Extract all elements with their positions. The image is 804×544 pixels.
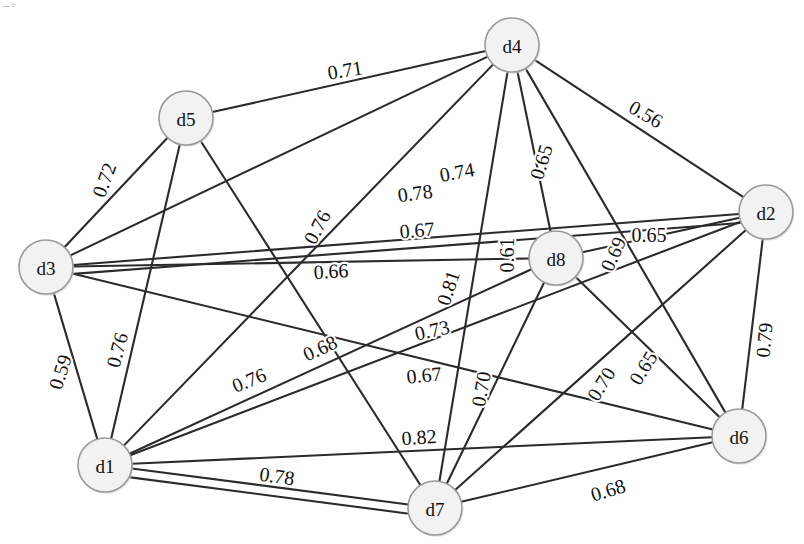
graph-node-d1[interactable]: d1 [78,438,134,494]
edge-weight-text: 0.78 [396,180,434,207]
edge-weight-label: 0.70 [467,370,495,408]
graph-edge [130,269,532,453]
node-circle[interactable] [19,240,73,294]
node-circle[interactable] [712,409,766,463]
graph-edge [72,273,713,429]
edge-weight-label: 0.76 [299,206,335,247]
edge-weight-text: 0.66 [313,259,349,283]
edge-weight-label: 0.79 [752,322,777,359]
graph-node-d6[interactable]: d6 [712,409,768,465]
edge-weight-label: 0.67 [399,218,436,243]
edge-weight-label: 0.65 [632,224,667,246]
graph-edge [535,60,744,197]
edge-weight-text: 0.68 [588,474,628,505]
edge-weight-text: 0.74 [438,158,476,186]
edge-weight-text: 0.73 [412,315,451,344]
edge-weight-label: 0.66 [313,259,349,283]
edge-weight-label: 0.73 [412,315,451,344]
edge-weight-text: 0.56 [625,96,666,133]
node-circle[interactable] [485,18,539,72]
edge-weight-text: 0.79 [752,322,777,359]
edge-weight-text: 0.70 [467,370,495,408]
edge-weight-text: 0.59 [44,352,75,392]
node-circle[interactable] [159,91,213,145]
graph-edge [64,138,167,248]
edge-weight-label: 0.82 [401,425,437,449]
graph-node-d3[interactable]: d3 [19,240,75,296]
graph-node-d8[interactable]: d8 [529,231,585,287]
edge-weight-label: 0.68 [588,474,628,505]
graph-node-d7[interactable]: d7 [408,481,464,537]
edge-weight-text: 0.67 [399,218,436,243]
edge-weight-text: 0.65 [632,224,667,246]
edge-weight-text: 0.82 [401,425,437,449]
edge-weight-label: 0.65 [525,142,556,182]
edge-weight-text: 0.76 [299,206,335,247]
graph-node-d2[interactable]: d2 [739,185,795,241]
edge-weight-text: 0.65 [624,347,661,388]
edge-weight-label: 0.74 [438,158,476,186]
edge-weight-text: 0.65 [525,142,556,182]
edge-weight-text: 0.61 [496,238,518,273]
edge-weight-label: 0.61 [496,238,518,273]
edge-weight-label: 0.67 [405,362,442,388]
node-circle[interactable] [78,438,132,492]
edge-weight-label: 0.59 [44,352,75,392]
node-circle[interactable] [529,231,583,285]
edge-weight-label: 0.65 [624,347,661,388]
node-circle[interactable] [408,481,462,535]
node-circle[interactable] [739,185,793,239]
edge-weight-label: 0.56 [625,96,666,133]
edge-labels-layer: 0.710.560.720.740.650.780.760.670.650.69… [44,56,776,505]
graph-canvas: d1d2d3d4d5d6d7d8 0.710.560.720.740.650.7… [0,0,804,544]
graph-figure: –◦ d1d2d3d4d5d6d7d8 0.710.560.720.740.65… [0,0,804,544]
edge-weight-label: 0.78 [396,180,434,207]
edge-weight-text: 0.67 [405,362,442,388]
